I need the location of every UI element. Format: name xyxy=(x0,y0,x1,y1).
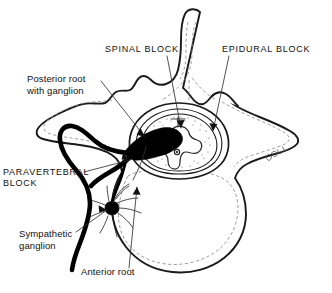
nerve-block-diagram: SPINAL BLOCK EPIDURAL BLOCK Posterior ro… xyxy=(0,0,332,293)
label-epidural-block: EPIDURAL BLOCK xyxy=(222,44,310,55)
label-anterior-root: Anterior root xyxy=(81,266,135,278)
label-paravertebral-block: PARAVERTEBRAL BLOCK xyxy=(3,167,89,189)
sympathetic-ganglion-node xyxy=(105,202,119,215)
central-canal-core xyxy=(176,151,178,153)
label-spinal-block: SPINAL BLOCK xyxy=(105,44,179,55)
label-sympathetic-ganglion: Sympathetic ganglion xyxy=(19,228,72,251)
label-posterior-root-with-ganglion: Posterior root with ganglion xyxy=(27,73,85,96)
